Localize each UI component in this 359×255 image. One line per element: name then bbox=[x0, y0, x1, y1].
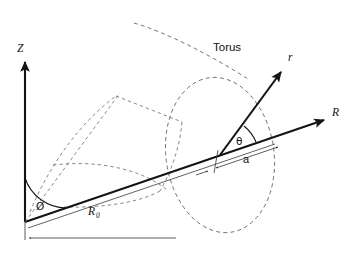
z-axis-label: Z bbox=[17, 42, 24, 54]
diagram-canvas: Z R r θ Ø bbox=[0, 0, 359, 255]
minor-radius-dimension: a bbox=[196, 147, 278, 175]
major-radius-subscript: 0 bbox=[96, 211, 100, 220]
z-axis: Z bbox=[17, 42, 25, 222]
theta-label: θ bbox=[236, 135, 242, 147]
major-radius-dimension: R 0 bbox=[28, 144, 275, 228]
major-radius-label: R bbox=[87, 205, 95, 217]
r-vector-label: r bbox=[288, 51, 293, 63]
baseline-dimension bbox=[25, 222, 176, 240]
r-axis-label: R bbox=[331, 106, 339, 118]
phi-angle: Ø bbox=[25, 178, 66, 212]
torus-label: Torus bbox=[213, 41, 241, 53]
torus-coordinate-diagram: Z R r θ Ø bbox=[0, 0, 359, 255]
torus-label-group: Torus bbox=[213, 41, 241, 53]
